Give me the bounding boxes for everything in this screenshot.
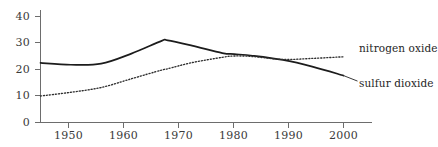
x-tick-label-1990: 1990 xyxy=(269,129,309,142)
leader-line-sulfur-dioxide xyxy=(344,76,358,82)
series-nitrogen-oxide xyxy=(41,56,344,96)
x-tick-label-1950: 1950 xyxy=(49,129,89,142)
x-tick-label-2000: 2000 xyxy=(324,129,364,142)
y-tick-label-30: 30 xyxy=(8,36,30,49)
y-tick-label-40: 40 xyxy=(8,10,30,23)
x-tick-label-1960: 1960 xyxy=(104,129,144,142)
y-tick-label-20: 20 xyxy=(8,63,30,76)
series-label-sulfur-dioxide: sulfur dioxide xyxy=(359,77,434,89)
x-tick-label-1980: 1980 xyxy=(214,129,254,142)
y-tick-label-0: 0 xyxy=(8,116,30,129)
x-tick-label-1970: 1970 xyxy=(159,129,199,142)
series-sulfur-dioxide xyxy=(41,39,344,75)
y-tick-label-10: 10 xyxy=(8,89,30,102)
series-label-nitrogen-oxide: nitrogen oxide xyxy=(359,42,438,54)
